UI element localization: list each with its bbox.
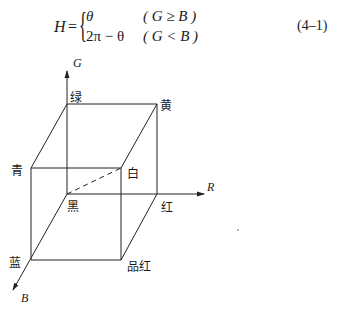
rgb-cube-diagram bbox=[0, 0, 345, 310]
vertex-magenta-label: 品红 bbox=[127, 257, 151, 274]
vertex-white-label: 白 bbox=[127, 164, 139, 181]
vertex-green-label: 绿 bbox=[70, 88, 82, 105]
vertex-red-label: 红 bbox=[161, 198, 173, 215]
gray-diagonal bbox=[67, 168, 121, 194]
r-axis-label: R bbox=[207, 180, 214, 195]
vertex-cyan-label: 青 bbox=[11, 161, 23, 178]
vertex-yellow-label: 黄 bbox=[160, 96, 172, 113]
b-axis-label: B bbox=[21, 291, 28, 306]
vertex-blue-label: 蓝 bbox=[9, 253, 21, 270]
b-axis bbox=[13, 194, 67, 290]
vertex-black-label: 黑 bbox=[67, 197, 79, 214]
g-axis-label: G bbox=[73, 56, 82, 71]
